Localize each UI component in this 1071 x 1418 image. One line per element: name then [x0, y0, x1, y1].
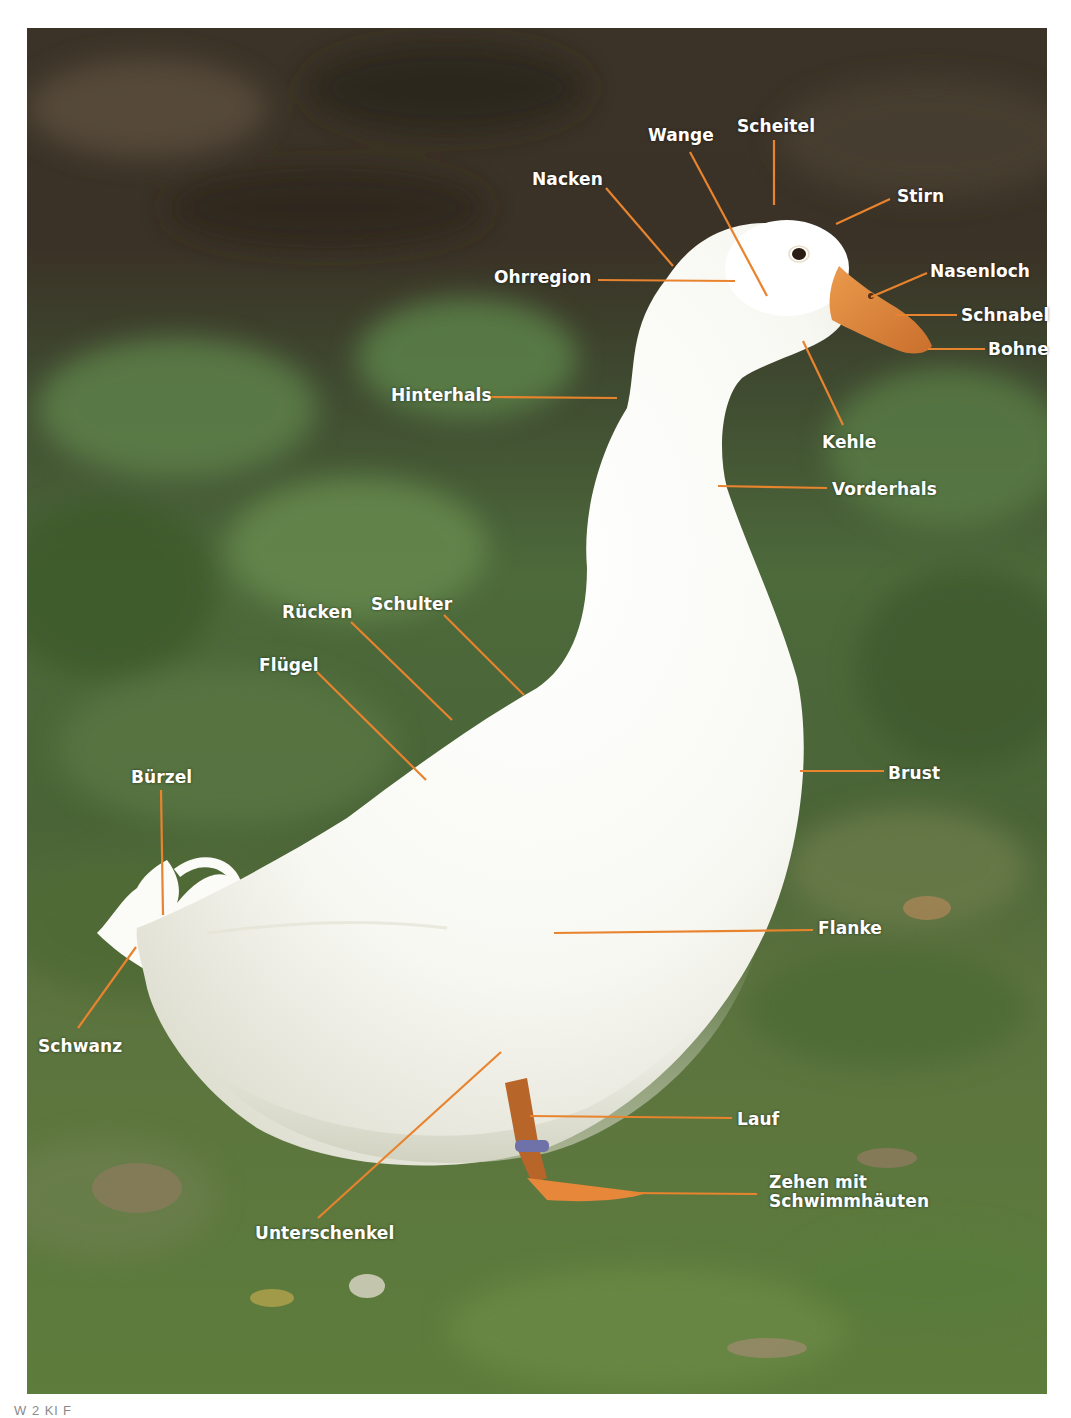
label-unterschenkel: Unterschenkel — [255, 1224, 394, 1243]
label-scheitel: Scheitel — [737, 117, 815, 136]
label-brust: Brust — [888, 764, 940, 783]
label-fluegel: Flügel — [259, 656, 319, 675]
label-ohrregion: Ohrregion — [494, 268, 592, 287]
label-ruecken: Rücken — [282, 603, 352, 622]
label-kehle: Kehle — [822, 433, 876, 452]
label-buerzel: Bürzel — [131, 768, 192, 787]
label-nacken: Nacken — [532, 170, 603, 189]
label-nasenloch: Nasenloch — [930, 262, 1030, 281]
label-lauf: Lauf — [737, 1110, 779, 1129]
label-vorderhals: Vorderhals — [832, 480, 937, 499]
label-schulter: Schulter — [371, 595, 452, 614]
figure-caption: W 2 Kl F — [14, 1403, 72, 1418]
label-zehen-mit-schwimmhaeuten: Zehen mit Schwimmhäuten — [769, 1173, 929, 1211]
label-stirn: Stirn — [897, 187, 944, 206]
label-wange: Wange — [648, 126, 714, 145]
label-schwanz: Schwanz — [38, 1037, 122, 1056]
label-hinterhals: Hinterhals — [391, 386, 492, 405]
label-bohne: Bohne — [988, 340, 1049, 359]
label-flanke: Flanke — [818, 919, 882, 938]
label-schnabel: Schnabel — [961, 306, 1049, 325]
